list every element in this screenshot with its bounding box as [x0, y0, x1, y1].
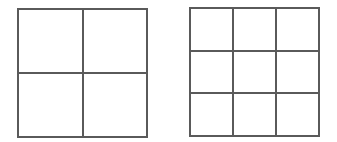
- grid-2x2-square: [17, 8, 148, 138]
- grid-vertical-divider: [232, 9, 234, 135]
- grid-3x3-square: [189, 7, 320, 137]
- grid-vertical-divider: [275, 9, 277, 135]
- grid-horizontal-divider: [191, 92, 318, 94]
- grid-horizontal-divider: [19, 72, 146, 74]
- grid-horizontal-divider: [191, 50, 318, 52]
